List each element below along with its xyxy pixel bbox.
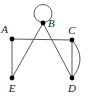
graph-canvas: A B C D E	[0, 0, 90, 96]
vertex-c	[70, 38, 75, 43]
vertex-d	[70, 76, 75, 81]
vertex-label-c: C	[68, 24, 76, 36]
vertex-label-a: A	[0, 23, 8, 35]
graph-diagram: A B C D E	[0, 0, 90, 96]
vertex-label-d: D	[67, 82, 76, 94]
edge-b-e	[12, 23, 43, 78]
edge-a-c	[12, 39, 72, 40]
vertex-e	[10, 76, 15, 81]
edge-c-d-arc	[72, 40, 80, 78]
vertex-a	[10, 37, 15, 42]
vertex-b	[41, 21, 46, 26]
vertex-label-e: E	[8, 82, 16, 94]
vertex-label-b: B	[48, 17, 55, 29]
